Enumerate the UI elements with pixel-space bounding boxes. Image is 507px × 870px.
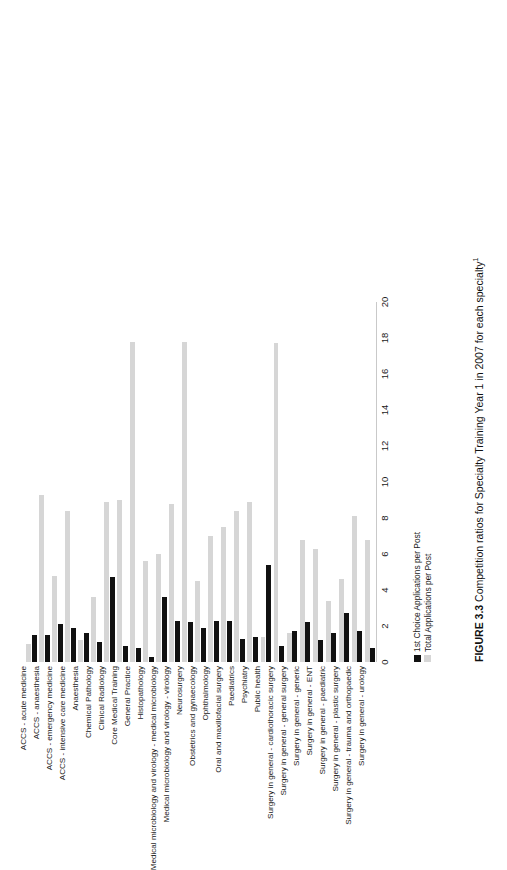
legend-item: Total Applications per Post — [423, 532, 434, 662]
axis-tick-label: 8 — [379, 515, 390, 520]
caption-text: Competition ratios for Specialty Trainin… — [472, 262, 484, 602]
plot-area — [25, 302, 377, 662]
axis-tick-label: 20 — [379, 297, 390, 308]
bar-total-applications — [156, 554, 161, 662]
category-label: Medical microbiology and virology - viro… — [161, 666, 170, 823]
bar-first-choice-applications — [188, 622, 193, 662]
category-label: Oral and maxillofacial surgery — [214, 666, 223, 773]
bar-first-choice-applications — [292, 631, 297, 662]
category-label: Paediatrics — [227, 666, 236, 706]
bar-group — [51, 302, 64, 662]
category-label: Histopathology — [135, 666, 144, 720]
bar-first-choice-applications — [97, 642, 102, 662]
bar-group — [247, 302, 260, 662]
caption-footnote-marker: 1 — [472, 258, 479, 262]
bar-first-choice-applications — [344, 613, 349, 662]
bar-group — [25, 302, 38, 662]
bar-total-applications — [261, 637, 266, 662]
bar-total-applications — [143, 561, 148, 662]
bar-total-applications — [104, 502, 109, 662]
figure-caption: FIGURE 3.3 Competition ratios for Specia… — [469, 42, 486, 662]
bar-group — [325, 302, 338, 662]
bar-total-applications — [247, 502, 252, 662]
legend-item: 1st Choice Applications per Post — [412, 532, 423, 662]
bar-total-applications — [182, 342, 187, 662]
bar-first-choice-applications — [32, 635, 37, 662]
bar-group — [299, 302, 312, 662]
category-label: Surgery in general - paediatric — [318, 666, 327, 774]
category-label: Public health — [253, 666, 262, 712]
bar-first-choice-applications — [370, 648, 375, 662]
bar-total-applications — [352, 516, 357, 662]
bar-total-applications — [195, 581, 200, 662]
axis-tick-label: 14 — [379, 405, 390, 416]
bar-total-applications — [117, 500, 122, 662]
category-label: Neurosurgery — [174, 666, 183, 715]
bar-total-applications — [339, 579, 344, 662]
category-label: Clinical Radiology — [96, 666, 105, 730]
bar-first-choice-applications — [279, 646, 284, 662]
bar-total-applications — [274, 343, 279, 662]
axis-tick-label: 6 — [379, 551, 390, 556]
bar-total-applications — [78, 640, 83, 662]
category-label: Surgery in general - cardiothoracic surg… — [266, 666, 275, 819]
bar-group — [234, 302, 247, 662]
category-label: Surgery in general - ENT — [305, 666, 314, 756]
bar-first-choice-applications — [45, 635, 50, 662]
bar-total-applications — [169, 504, 174, 662]
category-label: Medical microbiology and virology - medi… — [148, 666, 157, 870]
bar-group — [208, 302, 221, 662]
bar-total-applications — [26, 644, 31, 662]
bar-group — [116, 302, 129, 662]
category-label: Ophthalmology — [201, 666, 210, 720]
bar-group — [77, 302, 90, 662]
bar-group — [338, 302, 351, 662]
bar-group-container — [25, 302, 377, 662]
bar-first-choice-applications — [357, 631, 362, 662]
bar-total-applications — [65, 511, 70, 662]
bar-total-applications — [39, 495, 44, 662]
bar-first-choice-applications — [136, 648, 141, 662]
bar-group — [195, 302, 208, 662]
bar-group — [38, 302, 51, 662]
legend-label: Total Applications per Post — [423, 554, 434, 652]
bar-total-applications — [313, 549, 318, 662]
category-label: Surgery in general - general surgery — [279, 666, 288, 796]
bar-first-choice-applications — [253, 637, 258, 662]
axis-tick-label: 18 — [379, 333, 390, 344]
bar-first-choice-applications — [58, 624, 63, 662]
bar-total-applications — [91, 597, 96, 662]
category-label: Surgery in general - urology — [357, 666, 366, 766]
chart-legend: 1st Choice Applications per PostTotal Ap… — [412, 532, 433, 662]
bar-first-choice-applications — [175, 621, 180, 662]
bar-group — [142, 302, 155, 662]
axis-tick-label: 12 — [379, 441, 390, 452]
category-label: Surgery in general - generic — [292, 666, 301, 766]
legend-swatch-icon — [424, 655, 431, 662]
category-label: Surgery in general - trauma and orthopae… — [344, 666, 353, 825]
bar-total-applications — [365, 540, 370, 662]
bar-total-applications — [52, 576, 57, 662]
category-label: Surgery in general - plastic surgery — [331, 666, 340, 792]
bar-first-choice-applications — [305, 622, 310, 662]
bar-total-applications — [234, 511, 239, 662]
bar-first-choice-applications — [71, 628, 76, 662]
bar-total-applications — [130, 342, 135, 662]
bar-first-choice-applications — [214, 621, 219, 662]
caption-label: FIGURE 3.3 — [472, 605, 484, 662]
bar-group — [221, 302, 234, 662]
bar-first-choice-applications — [84, 633, 89, 662]
bar-total-applications — [287, 633, 292, 662]
bar-group — [182, 302, 195, 662]
bar-first-choice-applications — [227, 621, 232, 662]
bar-first-choice-applications — [110, 577, 115, 662]
category-label: ACCS - acute medicine — [18, 666, 27, 750]
bar-first-choice-applications — [318, 640, 323, 662]
bar-group — [103, 302, 116, 662]
axis-tick-label: 16 — [379, 369, 390, 380]
axis-tick-label: 4 — [379, 587, 390, 592]
category-label: Anaesthesia — [70, 666, 79, 711]
category-label: ACCS - emergency medicine — [44, 666, 53, 770]
